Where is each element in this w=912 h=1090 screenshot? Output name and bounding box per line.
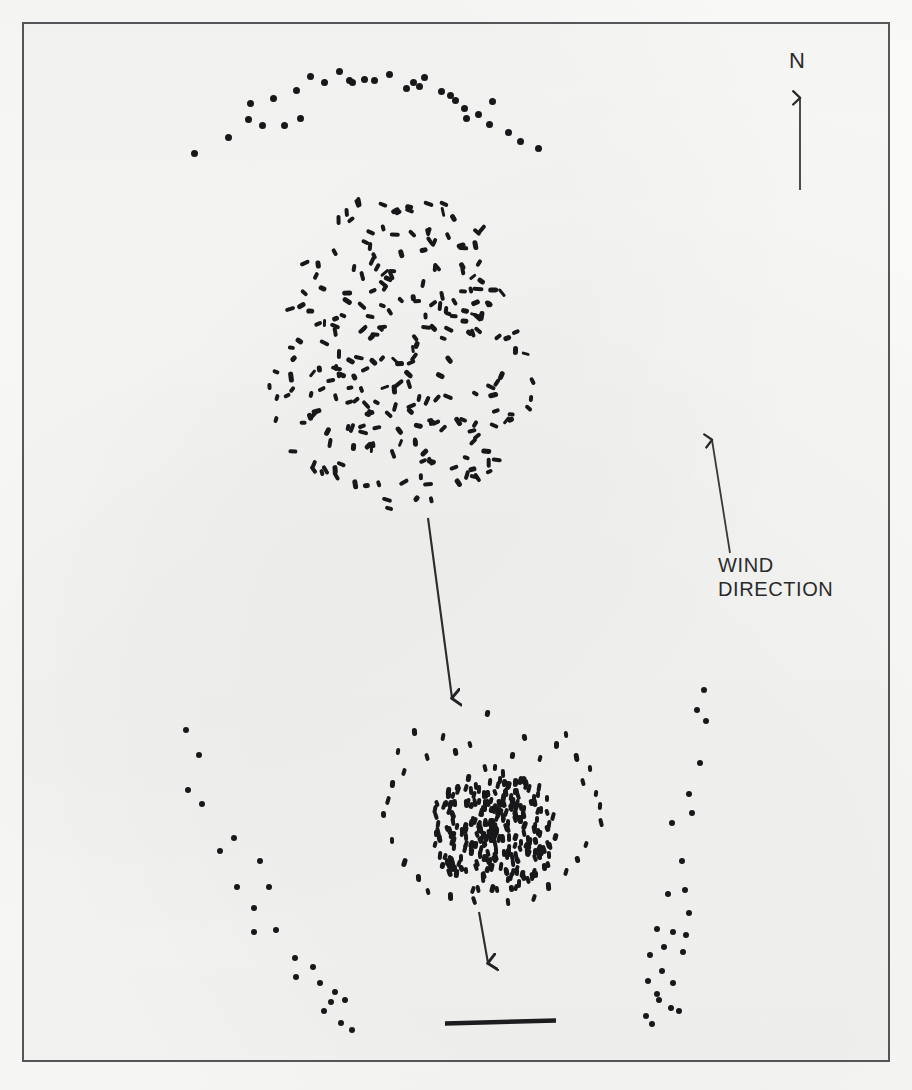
north-label: N — [789, 48, 806, 74]
lower-descent-arrow-icon — [479, 912, 488, 963]
wind-direction-arrow-icon — [712, 440, 730, 553]
figure-root: N WIND DIRECTION — [0, 0, 912, 1090]
upper-descent-arrow-icon — [428, 518, 452, 698]
annotation-vector-layer — [0, 0, 912, 1090]
scale-bar — [445, 1021, 556, 1024]
wind-direction-label: WIND DIRECTION — [718, 554, 833, 601]
